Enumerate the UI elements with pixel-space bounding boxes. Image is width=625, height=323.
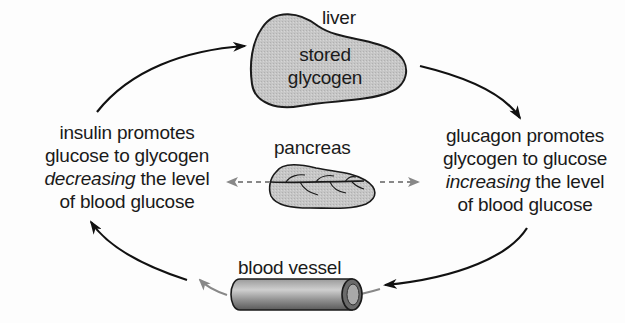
- liver-content: stored glycogen: [270, 43, 380, 89]
- arrow-glucagon-to-vessel: [385, 228, 527, 285]
- arrow-liver-to-glucagon: [420, 66, 520, 118]
- insulin-line1: insulin promotes: [22, 121, 232, 144]
- arrow-insulin-to-liver: [97, 46, 245, 112]
- insulin-description: insulin promotes glucose to glycogen dec…: [22, 121, 232, 213]
- insulin-line3: decreasing the level: [22, 167, 232, 190]
- blood-vessel-shape: [231, 279, 362, 310]
- glucagon-description: glucagon promotes glycogen to glucose in…: [425, 124, 625, 216]
- insulin-line2: glucose to glycogen: [22, 144, 232, 167]
- liver-content-line2: glycogen: [270, 66, 380, 89]
- glucagon-line3-italic: increasing: [446, 171, 531, 192]
- glucagon-line3: increasing the level: [425, 170, 625, 193]
- glucagon-line3-rest: the level: [530, 171, 604, 192]
- glucagon-line4: of blood glucose: [425, 193, 625, 216]
- glucagon-line1: glucagon promotes: [425, 124, 625, 147]
- liver-content-line1: stored: [270, 43, 380, 66]
- liver-label: liver: [322, 6, 356, 29]
- glucagon-line2: glycogen to glucose: [425, 147, 625, 170]
- arrow-vessel-to-left-gray: [200, 280, 227, 295]
- insulin-line3-italic: decreasing: [45, 168, 136, 189]
- pancreas-label: pancreas: [274, 136, 351, 159]
- glucose-regulation-diagram: liver stored glycogen insulin promotes g…: [0, 0, 625, 323]
- arrow-to-insulin: [91, 222, 187, 280]
- insulin-line3-rest: the level: [135, 168, 209, 189]
- pancreas-shape: [270, 165, 375, 209]
- blood-vessel-label: blood vessel: [238, 256, 341, 279]
- insulin-line4: of blood glucose: [22, 190, 232, 213]
